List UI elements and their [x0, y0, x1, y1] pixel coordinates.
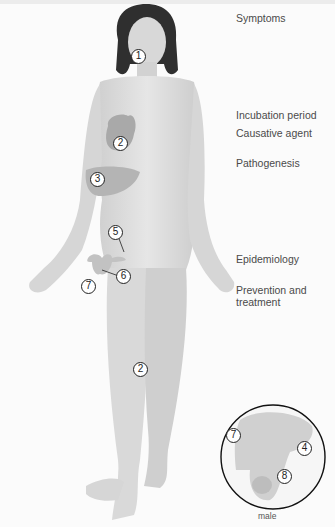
marker-inset-penis: 7	[226, 428, 241, 443]
marker-inset-testis: 8	[277, 469, 292, 484]
label-symptoms: Symptoms	[236, 12, 286, 24]
marker-uterine-tube: 5	[108, 225, 123, 240]
inset-caption: male	[258, 511, 276, 521]
label-prevention-treatment: Prevention and treatment	[236, 284, 326, 308]
inset-testis	[252, 476, 272, 494]
marker-inset-prostate: 4	[297, 441, 312, 456]
left-foot	[86, 479, 124, 501]
label-pathogenesis: Pathogenesis	[236, 157, 300, 169]
marker-heart: 2	[113, 136, 128, 151]
marker-ovary: 6	[116, 269, 131, 284]
neck	[137, 62, 157, 78]
right-arm	[188, 84, 235, 292]
marker-leg: 2	[133, 362, 148, 377]
marker-liver: 3	[90, 172, 105, 187]
marker-head: 1	[131, 49, 146, 64]
label-epidemiology: Epidemiology	[236, 253, 299, 265]
label-causative-agent: Causative agent	[236, 127, 312, 139]
label-incubation-period: Incubation period	[236, 109, 317, 121]
marker-vagina: 7	[81, 279, 96, 294]
right-leg	[144, 268, 187, 488]
